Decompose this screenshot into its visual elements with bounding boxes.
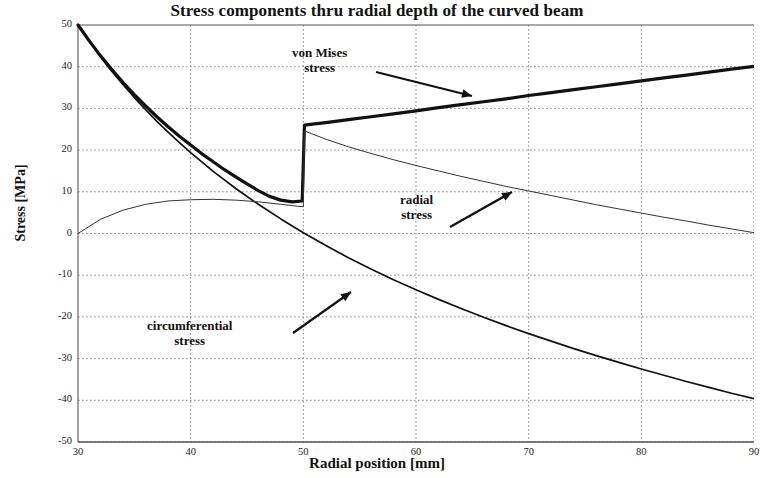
x-tick-label: 60	[403, 446, 429, 457]
y-tick-label: -30	[46, 352, 72, 363]
annotation-von-mises-line2: stress	[292, 60, 347, 75]
x-tick-label: 70	[516, 446, 542, 457]
x-tick-label: 40	[178, 446, 204, 457]
annotation-circ-line2: stress	[147, 333, 232, 348]
y-tick-label: 40	[46, 60, 72, 71]
x-tick-label: 80	[628, 446, 654, 457]
x-tick-label: 30	[65, 446, 91, 457]
annotation-von-mises-line1: von Mises	[292, 45, 347, 60]
x-tick-label: 90	[741, 446, 764, 457]
y-tick-label: -40	[46, 393, 72, 404]
y-tick-label: -10	[46, 268, 72, 279]
y-tick-label: 0	[46, 227, 72, 238]
y-tick-label: -50	[46, 435, 72, 446]
annotation-circumferential: circumferential stress	[147, 318, 232, 348]
y-tick-label: 20	[46, 143, 72, 154]
y-tick-label: 50	[46, 18, 72, 29]
annotation-radial-line2: stress	[400, 207, 433, 222]
annotation-circ-line1: circumferential	[147, 318, 232, 333]
y-tick-label: -20	[46, 310, 72, 321]
annotation-radial-line1: radial	[400, 192, 433, 207]
y-axis-title: Stress [MPa]	[13, 148, 29, 258]
y-tick-label: 10	[46, 185, 72, 196]
x-tick-label: 50	[290, 446, 316, 457]
gridlines	[78, 25, 754, 442]
annotation-von-mises: von Mises stress	[292, 45, 347, 75]
annotation-radial: radial stress	[400, 192, 433, 222]
x-axis-title: Radial position [mm]	[0, 455, 754, 472]
y-tick-label: 30	[46, 101, 72, 112]
